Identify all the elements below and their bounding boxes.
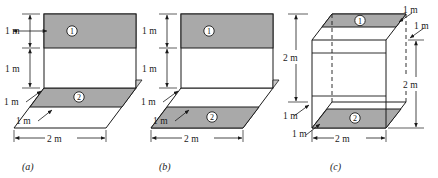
panel-b-dim-depth-lower: 1 m: [153, 116, 168, 126]
panel-a-marker-1-label: 1: [70, 27, 74, 36]
panel-b-dim-left-mid: 1 m: [142, 64, 157, 74]
panel-b-marker-2: 2: [207, 112, 217, 122]
panel-a-marker-2: 2: [74, 92, 84, 102]
panel-b-region-1-shade: [181, 14, 273, 48]
panel-b-caption: (b): [159, 161, 171, 173]
panel-c: 1 2 2 m 1 m 1 m 1 m 1 m 2 m 2 m: [282, 5, 429, 173]
panel-b-marker-1-label: 1: [207, 27, 211, 36]
panel-b-dim-depth-upper: 1 m: [141, 97, 156, 107]
panel-a-dim-bottom-width: 2 m: [47, 134, 62, 144]
panel-c-caption: (c): [330, 161, 342, 173]
panel-a-dim-depth-lower: 1 m: [16, 116, 31, 126]
engineering-figure: 1 2 1 m 1 m 1 m 1 m 2 m (a): [0, 0, 438, 178]
panel-a-corner-flap: [136, 80, 142, 88]
panel-c-dim-left-depth-lower: 1 m: [292, 129, 307, 139]
figure-container: 1 2 1 m 1 m 1 m 1 m 2 m (a): [0, 0, 438, 178]
panel-b-dim-left-top: 1 m: [142, 26, 157, 36]
panel-c-dim-left-height: 2 m: [283, 53, 298, 63]
panel-a-caption: (a): [22, 161, 34, 173]
panel-a-dim-left-mid: 1 m: [5, 64, 20, 74]
panel-c-dim-bottom-width: 2 m: [335, 134, 350, 144]
panel-c-marker-1: 1: [355, 15, 365, 25]
panel-b-marker-2-label: 2: [210, 113, 214, 122]
panel-a-dim-left-top: 1 m: [5, 26, 20, 36]
panel-c-marker-2-label: 2: [353, 114, 357, 123]
panel-a-region-1-shade: [44, 14, 136, 48]
panel-a-dim-depth-upper: 1 m: [4, 97, 19, 107]
panel-a-marker-2-label: 2: [77, 93, 81, 102]
panel-a-marker-1: 1: [67, 26, 77, 36]
panel-c-dim-right-depth-lower: 1 m: [414, 21, 429, 31]
panel-c-dim-left-depth-upper: 1 m: [283, 111, 298, 121]
panel-c-dim-right-height: 2 m: [403, 80, 418, 90]
panel-a: 1 2 1 m 1 m 1 m 1 m 2 m (a): [4, 14, 142, 173]
panel-b-dim-bottom-width: 2 m: [184, 134, 199, 144]
panel-b-marker-1: 1: [204, 26, 214, 36]
panel-b: 1 2 1 m 1 m 1 m 1 m 2 m (b): [141, 14, 279, 173]
panel-b-corner-flap: [273, 80, 279, 88]
panel-c-marker-1-label: 1: [358, 17, 362, 26]
panel-c-dim-right-depth-upper: 1 m: [403, 5, 418, 15]
panel-c-marker-2: 2: [350, 113, 360, 123]
